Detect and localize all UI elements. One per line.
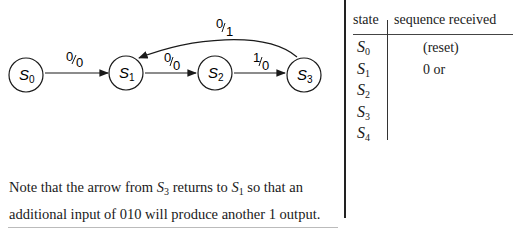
- svg-text:0: 0: [173, 58, 180, 73]
- state-diagram: S0 S1 S2 S3 0 0 0 0 1 0 0 1: [0, 0, 345, 170]
- table-row-state: S1: [357, 60, 370, 79]
- svg-text:0: 0: [66, 49, 73, 64]
- table-row-state: S2: [357, 81, 370, 100]
- table-row-state: S0: [357, 38, 370, 57]
- table-row-sequence: (reset): [423, 40, 459, 56]
- note-line-2: additional input of 010 will produce ano…: [9, 203, 320, 225]
- edge-label-s3-s1: 0 1: [216, 16, 233, 39]
- note-line-1: Note that the arrow from S3 returns to S…: [9, 176, 320, 203]
- bottom-rule: [8, 227, 338, 228]
- state-s2: S2: [198, 56, 232, 90]
- table-header-rule: [353, 34, 513, 35]
- state-s3: S3: [287, 58, 321, 92]
- state-s0: S0: [9, 58, 43, 92]
- vertical-divider: [344, 0, 346, 218]
- table-row-state: S3: [357, 103, 370, 122]
- svg-text:1: 1: [253, 50, 260, 65]
- svg-text:0: 0: [164, 50, 171, 65]
- edge-label-s1-s2: 0 0: [164, 50, 180, 73]
- table-column-rule: [387, 20, 388, 140]
- svg-text:0: 0: [216, 16, 223, 31]
- edge-label-s2-s3: 1 0: [253, 50, 269, 73]
- svg-text:0: 0: [262, 58, 269, 73]
- header-state: state: [353, 12, 379, 28]
- svg-text:1: 1: [226, 24, 233, 39]
- edge-label-s0-s1: 0 0: [66, 49, 83, 70]
- table-row-state: S4: [357, 124, 370, 143]
- table-row-sequence: 0 or: [423, 62, 445, 78]
- svg-text:0: 0: [76, 55, 83, 70]
- state-s1: S1: [109, 56, 143, 90]
- header-sequence-received: sequence received: [394, 12, 496, 28]
- note-paragraph: Note that the arrow from S3 returns to S…: [9, 176, 320, 225]
- edge-s3-s1: [139, 40, 297, 58]
